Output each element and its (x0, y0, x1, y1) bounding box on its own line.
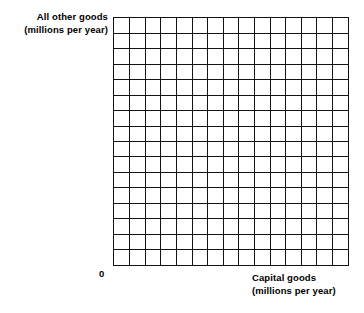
y-axis-label-line2: (millions per year) (8, 24, 108, 37)
x-axis-label-line1: Capital goods (252, 272, 336, 285)
origin-label: 0 (99, 268, 104, 279)
grid-lines (114, 18, 348, 265)
y-axis-label: All other goods (millions per year) (8, 11, 108, 36)
plot-area (113, 17, 349, 266)
x-axis-label: Capital goods (millions per year) (252, 272, 336, 297)
graph-figure: All other goods (millions per year) 0 Ca… (0, 0, 364, 313)
x-axis-label-line2: (millions per year) (252, 285, 336, 298)
y-axis-label-line1: All other goods (8, 11, 108, 24)
